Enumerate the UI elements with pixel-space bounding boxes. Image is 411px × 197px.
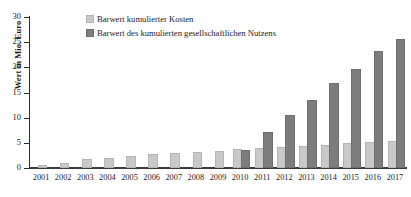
chart-legend: Barwert kumulierter KostenBarwert des ku… [86,13,276,41]
bar-benefit [329,83,339,168]
bar-benefit [241,150,251,168]
bar-benefit [374,51,384,168]
bar-group [384,17,406,168]
bar-benefit [285,115,295,168]
bar-cost [193,152,203,168]
y-tick-label: 30 [0,11,21,21]
bar-cost [82,159,92,168]
bar-group [52,17,74,168]
bar-cost [126,156,136,168]
x-tick-label: 2011 [251,173,273,183]
bar-chart: Wert in Mio. Euro 051015202530 200120022… [0,0,411,197]
bar-cost [215,151,225,168]
legend-swatch-benefit-icon [86,29,94,37]
y-tick-label: 25 [0,36,21,46]
x-tick-label: 2016 [362,173,384,183]
x-tick-label: 2010 [229,173,251,183]
legend-label: Barwert des kumulierten gesellschaftlich… [97,29,276,38]
bar-group [30,17,52,168]
y-tick-label: 20 [0,61,21,71]
bar-group [318,17,340,168]
bar-cost [104,158,114,168]
bar-cost [60,163,70,168]
x-tick-label: 2005 [118,173,140,183]
bar-cost [38,165,48,168]
x-tick-label: 2009 [207,173,229,183]
x-tick-label: 2012 [273,173,295,183]
x-tick-label: 2003 [74,173,96,183]
y-tick-label: 0 [0,162,21,172]
bar-cost [170,153,180,168]
bar-cost [148,154,158,168]
legend-item: Barwert des kumulierten gesellschaftlich… [86,27,276,39]
bar-benefit [351,69,361,168]
x-tick-label: 2015 [340,173,362,183]
y-tick-label: 15 [0,87,21,97]
bar-benefit [263,132,273,168]
x-tick-label: 2013 [295,173,317,183]
x-tick-label: 2017 [384,173,406,183]
bar-group [362,17,384,168]
x-tick-label: 2008 [185,173,207,183]
y-tick-label: 5 [0,137,21,147]
x-tick-label: 2002 [52,173,74,183]
legend-swatch-cost-icon [86,15,94,23]
legend-label: Barwert kumulierter Kosten [97,15,193,24]
x-tick-label: 2007 [163,173,185,183]
bar-benefit [307,100,317,168]
bar-group [295,17,317,168]
bar-group [340,17,362,168]
x-tick-label: 2014 [318,173,340,183]
bar-group [273,17,295,168]
y-tick-label: 10 [0,112,21,122]
bar-benefit [396,39,406,168]
x-tick-label: 2006 [141,173,163,183]
y-tick-mark [24,168,30,169]
x-tick-label: 2001 [30,173,52,183]
x-tick-label: 2004 [96,173,118,183]
legend-item: Barwert kumulierter Kosten [86,13,276,25]
